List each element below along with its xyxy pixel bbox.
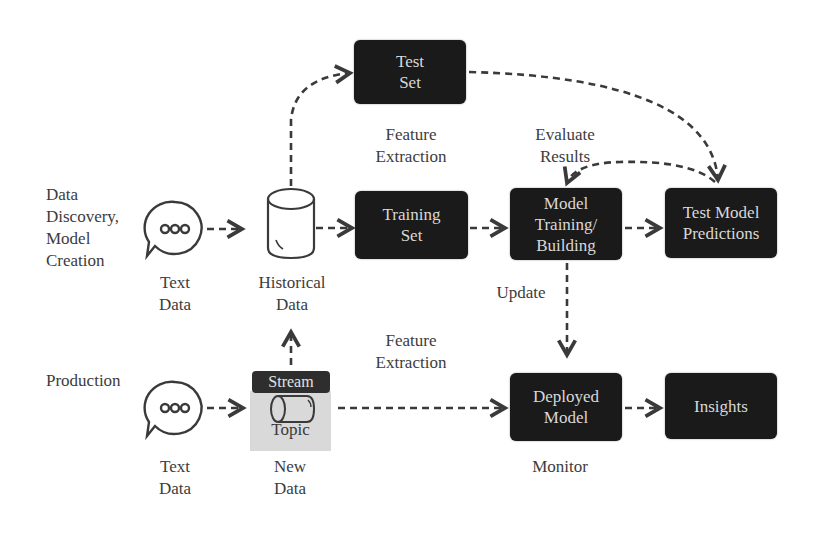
chat-bubble-icon xyxy=(145,382,202,436)
stream-label: Stream xyxy=(252,371,330,393)
topic-label: Topic xyxy=(250,419,331,441)
deployed-model-box: Deployed Model xyxy=(510,373,622,441)
insights-box: Insights xyxy=(665,373,777,439)
feature-extraction-label: Feature Extraction xyxy=(356,124,466,168)
model-training-box: Model Training/ Building xyxy=(510,188,622,260)
topic-container: Topic xyxy=(250,391,331,451)
training-set-box: Training Set xyxy=(355,191,468,259)
database-icon xyxy=(268,189,314,258)
monitor-label: Monitor xyxy=(520,456,600,478)
update-label: Update xyxy=(486,282,556,304)
new-data-label: New Data xyxy=(260,456,320,500)
arrow-historical-to-test xyxy=(291,73,350,186)
chat-bubble-icon xyxy=(145,202,202,256)
row-label-production: Production xyxy=(46,370,121,392)
feature-extraction-label: Feature Extraction xyxy=(356,330,466,374)
text-data-label: Text Data xyxy=(145,272,205,316)
evaluate-results-label: Evaluate Results xyxy=(520,124,610,168)
historical-data-label: Historical Data xyxy=(246,272,338,316)
text-data-label: Text Data xyxy=(145,456,205,500)
test-predictions-box: Test Model Predictions xyxy=(665,188,777,258)
test-set-box: Test Set xyxy=(354,40,466,104)
row-label-discovery: Data Discovery, Model Creation xyxy=(46,184,119,272)
